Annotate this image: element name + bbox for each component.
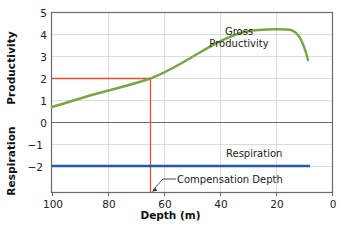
y-axis-title-respiration: Respiration xyxy=(5,125,17,197)
y-tick-3: 3 xyxy=(31,51,47,63)
chart-canvas xyxy=(0,0,341,229)
x-axis-title: Depth (m) xyxy=(0,209,341,221)
gross-productivity-label-line1: Gross xyxy=(225,26,253,37)
y-tick-5: 5 xyxy=(31,7,47,19)
gross-productivity-label-line2: Productivity xyxy=(209,38,268,49)
chart-figure: Productivity Respiration 5 4 3 2 1 0 −1 … xyxy=(0,0,341,229)
y-tick-1: 1 xyxy=(31,95,47,107)
respiration-label: Respiration xyxy=(226,148,302,160)
y-tick-2: 2 xyxy=(31,73,47,85)
y-tick-neg2: −2 xyxy=(27,161,43,173)
y-tick-neg1: −1 xyxy=(27,139,43,151)
y-axis-title-productivity: Productivity xyxy=(5,30,17,106)
compensation-depth-label: Compensation Depth xyxy=(177,174,307,186)
gross-productivity-label: Gross Productivity xyxy=(197,26,281,49)
y-tick-0: 0 xyxy=(31,117,47,129)
y-tick-4: 4 xyxy=(31,29,47,41)
